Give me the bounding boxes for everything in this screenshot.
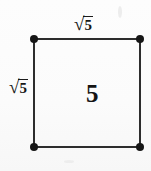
vertex-dot-top-right bbox=[136, 35, 144, 43]
radical-sign: √ bbox=[74, 14, 84, 33]
vertex-dot-top-left bbox=[30, 35, 38, 43]
radicand: 5 bbox=[83, 16, 93, 33]
vertex-dot-bottom-right bbox=[136, 143, 144, 151]
figure-canvas: √ 5 √ 5 5 bbox=[0, 0, 151, 171]
radicand: 5 bbox=[18, 79, 28, 96]
radical-sign: √ bbox=[9, 77, 19, 96]
top-side-length-label: √ 5 bbox=[74, 16, 93, 35]
scan-speck bbox=[64, 160, 74, 163]
vertex-dot-bottom-left bbox=[30, 143, 38, 151]
scan-speck bbox=[118, 6, 122, 18]
square-area-label: 5 bbox=[86, 81, 99, 106]
left-side-length-label: √ 5 bbox=[9, 79, 28, 98]
